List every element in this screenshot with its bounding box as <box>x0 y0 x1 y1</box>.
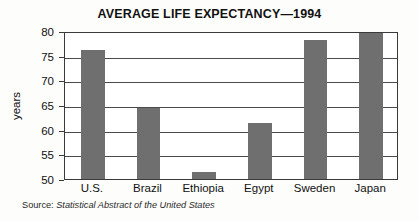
y-tick-label: 65 <box>41 100 54 112</box>
y-tick-label: 55 <box>41 149 54 161</box>
x-tick-label: U.S. <box>81 182 103 194</box>
x-tick-label: Sweden <box>294 182 336 194</box>
y-tick-label: 50 <box>41 174 54 186</box>
plot-area <box>64 32 398 180</box>
bar <box>248 123 271 179</box>
bar <box>359 33 382 179</box>
y-tick-label: 60 <box>41 125 54 137</box>
x-tick-label: Japan <box>354 182 385 194</box>
x-tick-label: Ethiopia <box>182 182 224 194</box>
x-tick-label: Egypt <box>244 182 273 194</box>
chart-figure: AVERAGE LIFE EXPECTANCY—1994 50556065707… <box>0 0 419 221</box>
bar-series <box>65 33 397 179</box>
y-tick-label: 70 <box>41 75 54 87</box>
y-tick-label: 75 <box>41 51 54 63</box>
x-axis-ticks: U.S.BrazilEthiopiaEgyptSwedenJapan <box>64 182 398 198</box>
y-tick-label: 80 <box>41 26 54 38</box>
source-publication: Statistical Abstract of the United State… <box>56 200 214 210</box>
bar <box>81 50 104 179</box>
source-prefix: Source: <box>22 200 54 210</box>
x-tick-label: Brazil <box>133 182 162 194</box>
bar <box>192 172 215 179</box>
y-tick-mark <box>59 180 64 181</box>
bar <box>304 40 327 179</box>
y-axis-title: years <box>10 92 22 120</box>
source-note: Source: Statistical Abstract of the Unit… <box>22 200 215 210</box>
bar <box>137 108 160 179</box>
